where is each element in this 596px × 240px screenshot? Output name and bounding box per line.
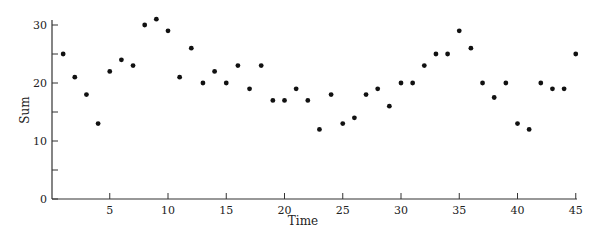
y-tick-label: 30 bbox=[33, 19, 47, 32]
x-tick-label: 35 bbox=[452, 204, 466, 217]
x-tick-label: 15 bbox=[219, 204, 233, 217]
x-axis-title: Time bbox=[288, 214, 318, 228]
data-point bbox=[96, 121, 101, 126]
data-point bbox=[224, 81, 229, 86]
data-point bbox=[107, 69, 112, 74]
data-point bbox=[212, 69, 217, 74]
data-point bbox=[177, 75, 182, 80]
data-point bbox=[236, 63, 241, 68]
scatter-chart: 0102030 51015202530354045 Time Sum bbox=[0, 0, 596, 240]
data-point bbox=[538, 81, 543, 86]
data-point bbox=[189, 46, 194, 51]
plot-points bbox=[61, 17, 578, 132]
data-point bbox=[61, 52, 66, 57]
data-point bbox=[434, 52, 439, 57]
data-point bbox=[387, 104, 392, 109]
data-point bbox=[340, 121, 345, 126]
data-point bbox=[399, 81, 404, 86]
data-point bbox=[247, 86, 252, 91]
data-point bbox=[154, 17, 159, 22]
data-point bbox=[550, 86, 555, 91]
data-point bbox=[119, 57, 124, 62]
x-tick-label: 40 bbox=[511, 204, 525, 217]
data-point bbox=[131, 63, 136, 68]
x-tick-label: 25 bbox=[336, 204, 350, 217]
data-point bbox=[142, 23, 147, 28]
data-point bbox=[492, 95, 497, 100]
x-tick-label: 5 bbox=[106, 204, 113, 217]
data-point bbox=[270, 98, 275, 103]
data-point bbox=[364, 92, 369, 97]
data-point bbox=[527, 127, 532, 132]
data-point bbox=[445, 52, 450, 57]
data-point bbox=[410, 81, 415, 86]
data-point bbox=[352, 115, 357, 120]
y-tick-label: 10 bbox=[33, 135, 47, 148]
data-point bbox=[573, 52, 578, 57]
data-point bbox=[294, 86, 299, 91]
y-axis: 0102030 bbox=[33, 19, 58, 206]
y-tick-label: 20 bbox=[33, 77, 47, 90]
data-point bbox=[166, 28, 171, 33]
data-point bbox=[72, 75, 77, 80]
y-tick-label: 0 bbox=[40, 193, 47, 206]
data-point bbox=[562, 86, 567, 91]
x-tick-label: 45 bbox=[569, 204, 583, 217]
x-tick-label: 30 bbox=[394, 204, 408, 217]
data-point bbox=[282, 98, 287, 103]
data-point bbox=[422, 63, 427, 68]
data-point bbox=[503, 81, 508, 86]
data-point bbox=[305, 98, 310, 103]
data-point bbox=[480, 81, 485, 86]
data-point bbox=[329, 92, 334, 97]
data-point bbox=[375, 86, 380, 91]
data-point bbox=[201, 81, 206, 86]
data-point bbox=[317, 127, 322, 132]
data-point bbox=[259, 63, 264, 68]
data-point bbox=[84, 92, 89, 97]
data-point bbox=[457, 28, 462, 33]
x-tick-label: 10 bbox=[161, 204, 175, 217]
data-point bbox=[515, 121, 520, 126]
y-axis-title: Sum bbox=[18, 96, 32, 124]
data-point bbox=[469, 46, 474, 51]
